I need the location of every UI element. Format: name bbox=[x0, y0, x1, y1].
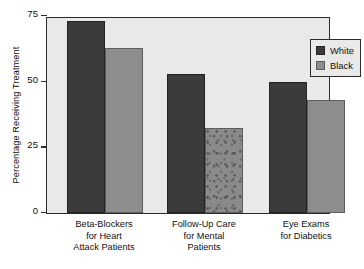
x-axis-group-label-line: for Mental bbox=[146, 231, 262, 243]
y-axis-tick: 75 bbox=[29, 15, 47, 16]
bar-white-group-3 bbox=[269, 82, 307, 213]
x-axis-group-label-line: Follow-Up Care bbox=[146, 219, 262, 231]
x-axis-group-label-3: Eye Examsfor Diabetics bbox=[248, 219, 364, 242]
bar-black-group-2 bbox=[205, 128, 243, 213]
legend-swatch-black-icon bbox=[316, 61, 325, 70]
x-axis-group-label-2: Follow-Up Carefor MentalPatients bbox=[146, 219, 262, 254]
chart-legend: WhiteBlack bbox=[310, 39, 361, 77]
legend-label: Black bbox=[330, 60, 353, 71]
bar-black-group-3 bbox=[307, 100, 345, 213]
bar-white-group-2 bbox=[167, 74, 205, 213]
legend-item-white: White bbox=[316, 44, 354, 57]
legend-swatch-white-icon bbox=[316, 46, 325, 55]
y-axis-tick: 0 bbox=[29, 212, 47, 213]
y-tick-label: 50 bbox=[27, 74, 38, 85]
y-axis-tick: 50 bbox=[29, 81, 47, 82]
bars-layer bbox=[47, 18, 329, 213]
bar-black-group-1 bbox=[105, 48, 143, 213]
x-axis-group-label-line: Patients bbox=[146, 242, 262, 254]
legend-item-black: Black bbox=[316, 59, 354, 72]
legend-label: White bbox=[330, 45, 354, 56]
y-tick-label: 75 bbox=[27, 8, 38, 19]
x-axis-group-label-line: Beta-Blockers bbox=[46, 219, 162, 231]
y-tick-label: 0 bbox=[33, 205, 38, 216]
x-axis-group-label-1: Beta-Blockersfor HeartAttack Patients bbox=[46, 219, 162, 254]
x-axis-group-label-line: Attack Patients bbox=[46, 242, 162, 254]
x-axis-group-label-line: for Diabetics bbox=[248, 231, 364, 243]
y-tick-label: 25 bbox=[27, 139, 38, 150]
plot-area: 7550250 WhiteBlack bbox=[46, 17, 330, 214]
y-tick-mark bbox=[41, 15, 47, 16]
y-axis-title: Percentage Receiving Treatment bbox=[11, 15, 21, 215]
x-axis-group-label-line: for Heart bbox=[46, 231, 162, 243]
x-axis-group-label-line: Eye Exams bbox=[248, 219, 364, 231]
y-axis-tick: 25 bbox=[29, 146, 47, 147]
bar-white-group-1 bbox=[67, 21, 105, 213]
